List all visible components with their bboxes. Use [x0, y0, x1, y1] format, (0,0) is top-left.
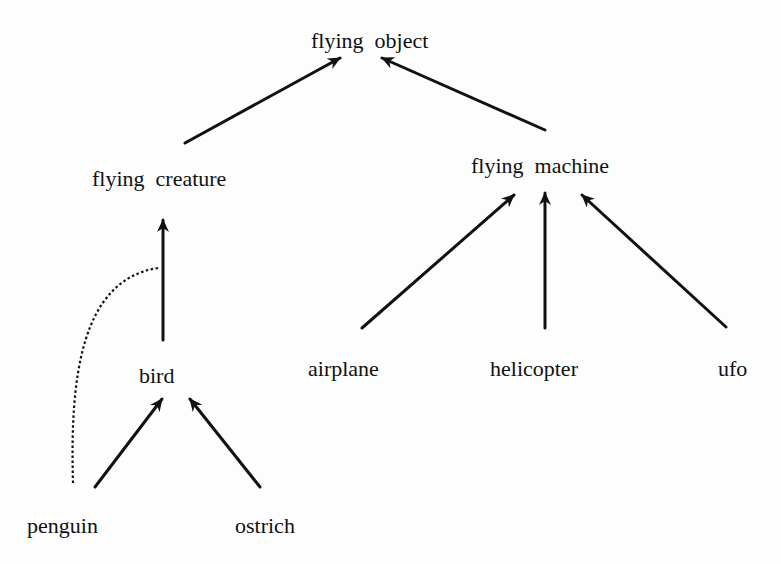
node-airplane: airplane	[308, 358, 379, 380]
node-bird: bird	[139, 365, 174, 387]
node-flying-creature: flying creature	[92, 168, 226, 190]
node-penguin: penguin	[27, 515, 98, 537]
edge-penguin-to-bird	[95, 399, 162, 487]
edges-layer	[0, 0, 781, 564]
edge-ufo-to-machine	[582, 195, 726, 327]
node-flying-object: flying object	[311, 30, 428, 52]
node-ostrich: ostrich	[235, 515, 295, 537]
diagram-canvas: flying object flying creature flying mac…	[0, 0, 781, 564]
node-helicopter: helicopter	[490, 358, 578, 380]
edge-ostrich-to-bird	[190, 399, 260, 487]
edge-airplane-to-machine	[362, 195, 514, 328]
node-ufo: ufo	[718, 358, 747, 380]
edge-machine-to-object	[382, 58, 545, 130]
node-flying-machine: flying machine	[471, 155, 609, 177]
edge-creature-to-object	[185, 58, 340, 143]
